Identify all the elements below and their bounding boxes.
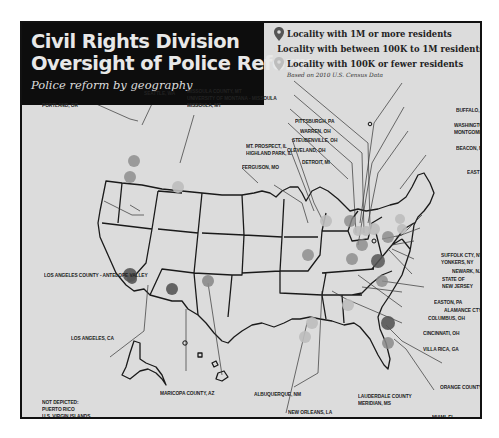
label-los-angeles: LOS ANGELES, CA: [71, 334, 114, 341]
map-pin-icon: [166, 283, 178, 295]
label-newark: NEWARK, NJ: [452, 267, 482, 274]
map-pin-icon: [302, 249, 314, 261]
map-pin-icon: [344, 215, 356, 227]
map-pin-icon: [371, 254, 385, 268]
label-steubenville: STEUBENVILLE, OH: [292, 136, 337, 143]
title-line-2: Oversight of Police Reform: [31, 53, 314, 75]
title-line-1: Civil Rights Division: [31, 31, 314, 53]
map-pin-icon: [356, 239, 368, 251]
label-not-depicted: NOT DEPICTED:PUERTO RICOU.S. VIRGIN ISLA…: [42, 398, 90, 419]
map-pin-icon: [299, 331, 311, 343]
label-warren: WARREN, OH: [300, 127, 331, 134]
map-pin-icon: [124, 171, 136, 183]
label-new-jersey: STATE OFNEW JERSEY: [442, 275, 473, 289]
label-cleveland: CLEVELAND, OH: [287, 146, 325, 153]
map-pin-icon: [172, 181, 184, 193]
map-pin-icon: [128, 155, 140, 167]
label-ferguson: FERGUSON, MO: [242, 163, 279, 170]
map-pin-icon: [368, 223, 380, 235]
label-maricopa: MARICOPA COUNTY, AZ: [160, 389, 214, 396]
map-pin-icon: [397, 224, 407, 234]
map-pin-icon: [346, 253, 358, 265]
map-pin-icon: [381, 316, 395, 330]
legend-label: Locality with 100K or fewer residents: [287, 59, 463, 69]
label-la-county: LOS ANGELES COUNTY - ANTELOPE VALLEY: [44, 271, 148, 278]
map-frame: Civil Rights Division Oversight of Polic…: [20, 21, 482, 419]
map-pin-icon: [342, 299, 354, 311]
legend-note: Based on 2010 U.S. Census Data: [287, 72, 482, 78]
map-pin-icon: [395, 214, 405, 224]
map-pin-icon: [320, 215, 332, 227]
label-beacon: BEACON, NY: [456, 144, 482, 151]
label-suffolk-yonkers: SUFFOLK CTY, NYYONKERS, NY: [441, 251, 482, 265]
map-pin-icon: [274, 57, 284, 71]
label-orange-county: ORANGE COUNTY, FL: [440, 383, 482, 390]
legend: Locality with 1M or more residents Local…: [274, 26, 482, 78]
label-missoula: MISSOULA COUNTY, MTUNIVERSITY OF MONTANA…: [187, 87, 277, 108]
label-new-orleans: NEW ORLEANS, LA: [288, 408, 332, 415]
label-villa-rica: VILLA RICA, GA: [423, 345, 459, 352]
map-pin-icon: [382, 337, 394, 349]
label-albuquerque: ALBUQUERQUE, NM: [254, 390, 301, 397]
label-portland: PORTLAND, OR: [42, 101, 78, 108]
map-pin-icon: [382, 231, 394, 243]
label-miami: MIAMI, FL: [432, 413, 454, 419]
page-title: Civil Rights Division Oversight of Polic…: [31, 31, 314, 75]
label-washington-montgomery: WASHINGTON, DCMONTGOMERY CTY, MD: [454, 121, 482, 135]
label-lauderdale-meridian: LAUDERDALE COUNTYMERIDIAN, MS: [358, 392, 412, 406]
label-detroit: DETROIT, MI: [302, 158, 330, 165]
label-pittsburgh: PITTSBURGH, PA: [295, 117, 334, 124]
map-pin-icon: [376, 275, 388, 287]
label-cincinnati: CINCINNATI, OH: [423, 329, 459, 336]
legend-label: Locality with between 100K to 1M residen…: [277, 44, 482, 54]
label-seattle: SEATTLE, WA: [144, 89, 175, 96]
label-buffalo: BUFFALO, NY: [456, 106, 482, 113]
label-alamance: ALAMANCE CTY, NC: [444, 306, 482, 313]
map-pin-icon: [306, 317, 318, 329]
map-pin-icon: [202, 275, 214, 287]
legend-label: Locality with 1M or more residents: [287, 29, 452, 39]
label-columbus: COLUMBUS, OH: [428, 314, 465, 321]
legend-item-small: Locality with 100K or fewer residents: [274, 56, 482, 71]
map-pin-icon: [274, 27, 284, 41]
label-mt-prospect-highland-park: MT. PROSPECT, ILHIGHLAND PARK, IL: [246, 142, 292, 156]
label-east-haven: EAST HAVEN, CT: [467, 168, 482, 175]
legend-item-medium: Locality with between 100K to 1M residen…: [274, 41, 482, 56]
label-easton: EASTON, PA: [434, 298, 462, 305]
legend-item-large: Locality with 1M or more residents: [274, 26, 482, 41]
